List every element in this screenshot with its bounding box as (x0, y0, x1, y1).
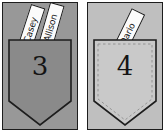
pocket-shape-3[interactable]: 3 (8, 39, 72, 126)
pocket-cards-scene: Casey Allison 3 Dario 4 (0, 0, 167, 134)
card-pocket-3[interactable]: Casey Allison 3 (2, 2, 78, 130)
card-pocket-4[interactable]: Dario 4 (87, 2, 163, 130)
pocket-number-label: 3 (8, 53, 72, 79)
pocket-shape-4[interactable]: 4 (93, 39, 157, 126)
pocket-number-label: 4 (93, 53, 157, 79)
